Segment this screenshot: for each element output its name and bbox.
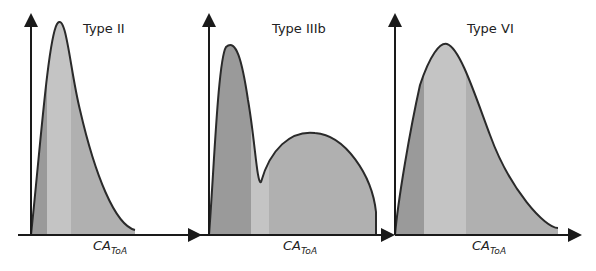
title-type-vi: Type VI — [466, 21, 514, 36]
panel-type-iiib: Type IIIb CAToA — [200, 0, 388, 256]
title-type-iiib: Type IIIb — [271, 21, 326, 36]
xlabel-type-iiib: CAToA — [283, 238, 317, 256]
distribution-types-diagram: Type II CAToA Type IIIb CAToA Type VI CA… — [0, 0, 596, 271]
xlabel-type-vi: CAToA — [472, 238, 506, 256]
panel-type-ii: Type II CAToA — [18, 0, 195, 256]
title-type-ii: Type II — [82, 21, 125, 36]
xlabel-type-ii: CAToA — [93, 238, 127, 256]
panel-type-vi: Type VI CAToA — [395, 0, 575, 256]
